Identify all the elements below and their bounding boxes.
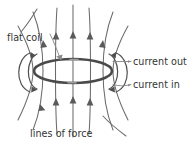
field-line-tail-top-left <box>21 9 37 32</box>
field-arrow-up-3 <box>87 32 94 40</box>
label-lines-of-force: lines of force <box>30 128 93 139</box>
field-arrow-up-6 <box>70 96 77 104</box>
field-arrow-up-2 <box>53 32 60 40</box>
field-arrow-up-1 <box>70 31 77 39</box>
label-current-in: current in <box>133 79 180 90</box>
field-arrow-up-7 <box>53 98 60 106</box>
leader-current-in <box>113 85 131 86</box>
field-line-outer-right <box>113 26 128 120</box>
label-flat-coil: flat coil <box>7 32 43 43</box>
field-arrowheads-group <box>39 31 106 111</box>
field-line-inner-left <box>56 8 58 134</box>
field-line-tail-bottom-right <box>103 116 126 136</box>
magnetic-field-figure: flat coil current out current in lines o… <box>0 0 187 146</box>
field-diagram-svg: flat coil current out current in lines o… <box>0 0 187 146</box>
label-current-out: current out <box>133 56 187 67</box>
field-arrow-up-8 <box>87 98 94 106</box>
field-line-inner-right <box>89 8 91 134</box>
